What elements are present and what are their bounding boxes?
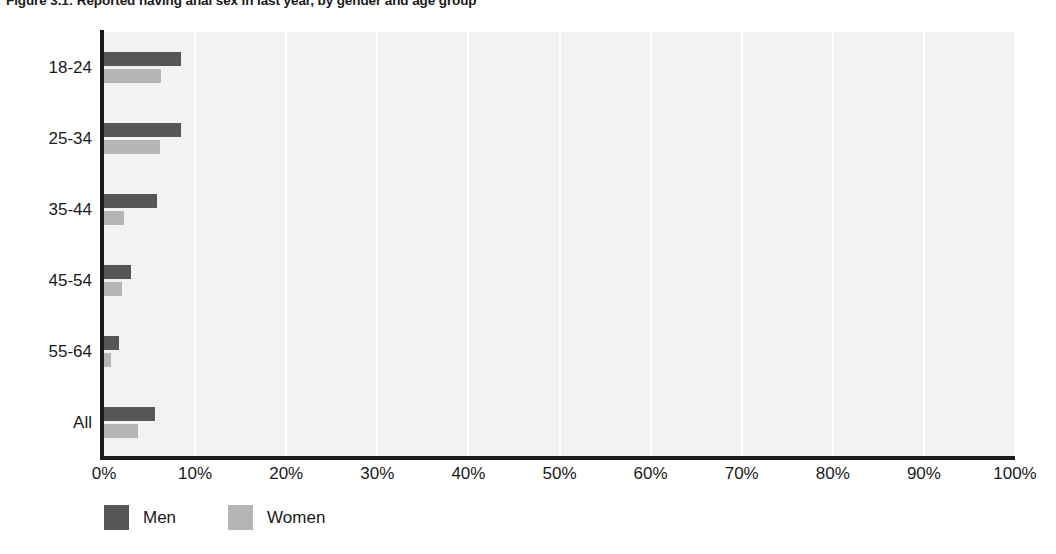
x-axis-line (100, 456, 1015, 460)
gridline-80pct (832, 32, 834, 458)
bar-group (104, 336, 1015, 367)
x-tick-label: 0% (59, 464, 149, 484)
x-tick-label: 50% (515, 464, 605, 484)
bar-group (104, 265, 1015, 296)
x-tick-label: 10% (150, 464, 240, 484)
gridline-90pct (923, 32, 925, 458)
x-tick-label: 30% (332, 464, 422, 484)
y-tick-label: 25-34 (6, 130, 92, 148)
legend-label: Women (267, 508, 325, 528)
y-tick-label: All (6, 414, 92, 432)
bar-women-45-54 (104, 282, 122, 296)
bar-women-35-44 (104, 211, 124, 225)
gridline-70pct (741, 32, 743, 458)
chart-title: Figure 3.1: Reported having anal sex in … (6, 0, 476, 8)
y-tick-label: 18-24 (6, 59, 92, 77)
bar-women-25-34 (104, 140, 160, 154)
chart-legend: MenWomen (104, 505, 377, 530)
y-axis-line (100, 30, 104, 460)
bar-men-45-54 (104, 265, 131, 279)
bar-group (104, 52, 1015, 83)
bar-women-18-24 (104, 69, 161, 83)
gridline-50pct (559, 32, 561, 458)
bar-women-all (104, 424, 138, 438)
legend-swatch-icon (104, 505, 129, 530)
bar-women-55-64 (104, 353, 111, 367)
x-tick-label: 40% (423, 464, 513, 484)
bar-men-25-34 (104, 123, 181, 137)
legend-item-men[interactable]: Men (104, 505, 176, 530)
x-tick-label: 60% (606, 464, 696, 484)
bar-men-35-44 (104, 194, 157, 208)
bar-men-18-24 (104, 52, 181, 66)
bar-men-55-64 (104, 336, 119, 350)
y-tick-label: 45-54 (6, 272, 92, 290)
legend-label: Men (143, 508, 176, 528)
x-tick-label: 70% (697, 464, 787, 484)
bar-group (104, 123, 1015, 154)
bar-group (104, 194, 1015, 225)
gridline-30pct (376, 32, 378, 458)
x-tick-label: 100% (970, 464, 1056, 484)
x-tick-label: 80% (788, 464, 878, 484)
gridline-60pct (650, 32, 652, 458)
gridline-10pct (194, 32, 196, 458)
y-axis-tick-labels: 18-2425-3435-4445-5455-64All (0, 32, 92, 458)
gridline-40pct (467, 32, 469, 458)
y-tick-label: 35-44 (6, 201, 92, 219)
plot-area (104, 32, 1015, 458)
x-axis-tick-labels: 0%10%20%30%40%50%60%70%80%90%100% (104, 464, 1015, 490)
bar-group (104, 407, 1015, 438)
legend-swatch-icon (228, 505, 253, 530)
legend-item-women[interactable]: Women (228, 505, 325, 530)
x-tick-label: 90% (879, 464, 969, 484)
x-tick-label: 20% (241, 464, 331, 484)
bar-men-all (104, 407, 155, 421)
y-tick-label: 55-64 (6, 343, 92, 361)
gridline-20pct (285, 32, 287, 458)
gridline-100pct (1014, 32, 1016, 458)
figure-container: Figure 3.1: Reported having anal sex in … (0, 0, 1056, 554)
